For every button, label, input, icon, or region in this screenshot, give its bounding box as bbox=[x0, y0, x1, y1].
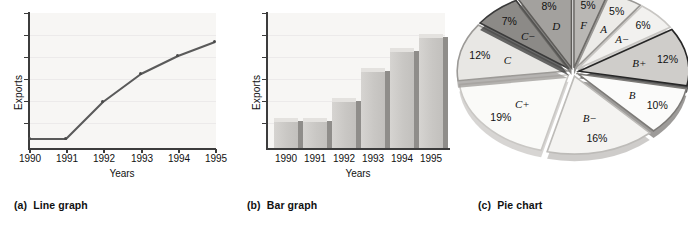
bar-y-tick bbox=[262, 123, 267, 124]
bar-y-tick bbox=[262, 101, 267, 102]
pie-slice-percent: 16% bbox=[586, 132, 607, 144]
bar-y-tick bbox=[262, 35, 267, 36]
pie-slice-percent: 8% bbox=[541, 0, 556, 12]
pie-slice-label: B− bbox=[583, 112, 597, 124]
pie-slice-percent: 19% bbox=[490, 111, 511, 123]
line-series-path bbox=[30, 42, 215, 139]
line-data-point bbox=[64, 137, 67, 140]
line-caption-tag: (a) bbox=[14, 199, 27, 211]
line-data-point bbox=[213, 40, 216, 43]
pie-slice-percent: 7% bbox=[502, 15, 517, 27]
bar-caption-title: Bar graph bbox=[267, 199, 318, 211]
bar-1994 bbox=[390, 52, 414, 148]
pie-slice-label: A− bbox=[614, 33, 629, 45]
bar-graph-panel: Exports 1990 1991 1992 1993 1994 1995 Ye… bbox=[230, 0, 445, 225]
bar-x-axis bbox=[266, 148, 450, 150]
pie-slice-label: D bbox=[551, 20, 560, 32]
bar-1995 bbox=[419, 38, 443, 148]
line-data-point bbox=[139, 72, 142, 75]
line-y-axis-label: Exports bbox=[13, 75, 24, 110]
line-data-point bbox=[101, 100, 104, 103]
pie-slice-percent: 5% bbox=[609, 5, 624, 17]
pie-slice-percent: 12% bbox=[657, 53, 678, 65]
line-x-tick-label: 1990 bbox=[9, 153, 51, 164]
pie-slice-label: C+ bbox=[515, 98, 530, 110]
pie-caption-title: Pie chart bbox=[497, 199, 542, 211]
bar-1991 bbox=[303, 122, 327, 148]
pie-slice-label: A bbox=[599, 23, 607, 35]
bar-graph-caption: (b) Bar graph bbox=[247, 199, 317, 211]
line-x-tick-label: 1992 bbox=[83, 153, 125, 164]
line-x-tick-label: 1994 bbox=[158, 153, 200, 164]
pie-chart-panel: F5%A5%A−6%B+12%B10%B−16%C+19%C12%C−7%D8%… bbox=[445, 0, 688, 225]
bar-1993 bbox=[361, 72, 385, 148]
bar-1992 bbox=[332, 102, 356, 148]
bar-y-tick bbox=[262, 79, 267, 80]
bar-1990 bbox=[274, 122, 298, 148]
bar-x-axis-label: Years bbox=[328, 168, 388, 179]
pie-chart-svg: F5%A5%A−6%B+12%B10%B−16%C+19%C12%C−7%D8% bbox=[445, 0, 688, 185]
line-series-svg bbox=[0, 0, 230, 225]
pie-slice-label: C bbox=[504, 54, 512, 66]
pie-chart-caption: (c) Pie chart bbox=[478, 199, 542, 211]
pie-slice-label: B+ bbox=[632, 57, 646, 69]
pie-slice-percent: 12% bbox=[469, 49, 490, 61]
line-graph-caption: (a) Line graph bbox=[14, 199, 88, 211]
bar-caption-tag: (b) bbox=[247, 199, 261, 211]
line-data-point bbox=[28, 137, 31, 140]
pie-caption-tag: (c) bbox=[478, 199, 491, 211]
line-x-tick-label: 1991 bbox=[46, 153, 88, 164]
pie-slice-percent: 5% bbox=[580, 0, 595, 11]
bar-y-axis bbox=[266, 12, 268, 149]
pie-slice-label: C− bbox=[521, 30, 536, 42]
pie-slice-label: F bbox=[579, 19, 587, 31]
pie-slice-percent: 10% bbox=[647, 99, 668, 111]
bar-y-axis-label: Exports bbox=[251, 75, 262, 110]
pie-slice-label: B bbox=[629, 89, 636, 101]
line-x-tick-label: 1993 bbox=[121, 153, 163, 164]
line-caption-title: Line graph bbox=[33, 199, 88, 211]
line-data-point bbox=[176, 54, 179, 57]
line-graph-panel: Exports 1990 1991 1992 1993 1994 1995 Ye… bbox=[0, 0, 230, 225]
pie-slice-percent: 6% bbox=[636, 19, 651, 31]
bar-y-tick bbox=[262, 57, 267, 58]
line-x-axis-label: Years bbox=[92, 168, 152, 179]
bar-y-tick bbox=[262, 13, 267, 14]
